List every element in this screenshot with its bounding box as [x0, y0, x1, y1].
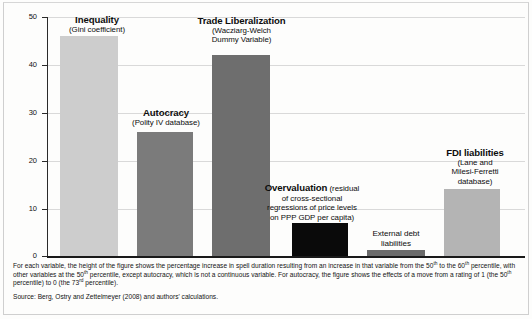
- bar-fdi-liabilities: [444, 189, 500, 256]
- label-overvaluation-sub-2: of cross-sectional: [252, 194, 372, 204]
- y-tick-label-10: 10: [29, 205, 37, 213]
- y-tick-label-30: 30: [29, 109, 37, 117]
- label-trade-liberalization-title: Trade Liberalization: [185, 16, 298, 26]
- y-tick-label-50: 50: [29, 13, 37, 21]
- label-trade-liberalization-sub-2: Dummy Variable): [185, 35, 298, 45]
- label-external-debt-line-1: External debt: [361, 229, 431, 239]
- gridline-40: [47, 65, 525, 66]
- y-tick-label-40: 40: [29, 61, 37, 69]
- label-trade-liberalization-sub-1: (Wacziarg-Welch: [185, 26, 298, 36]
- label-fdi-liabilities-sub-3: database): [432, 177, 518, 187]
- figure-notes: For each variable, the height of the fig…: [13, 262, 521, 301]
- bar-autocracy: [137, 132, 193, 256]
- y-tick-label-0: 0: [33, 252, 37, 260]
- label-inequality-title: Inequality: [47, 15, 147, 25]
- label-external-debt: External debt liabilities: [361, 229, 431, 248]
- note-seg-g: percentile) to 0 (the 73: [13, 279, 79, 286]
- label-overvaluation-sub-1: (residual: [327, 184, 359, 193]
- x-axis-line: [47, 256, 525, 258]
- note-seg-c: percentile,: [469, 262, 501, 269]
- label-fdi-liabilities-sub-1: (Lane and: [432, 158, 518, 168]
- note-seg-a: For each variable, the height of the fig…: [13, 262, 433, 269]
- y-tick-label-20: 20: [29, 157, 37, 165]
- bar-overvaluation: [292, 223, 348, 257]
- label-external-debt-line-2: liabilities: [361, 239, 431, 249]
- label-inequality: Inequality (Gini coefficient): [47, 15, 147, 34]
- bar-inequality: [60, 36, 118, 256]
- label-fdi-liabilities: FDI liabilities (Lane and Milesi-Ferrett…: [432, 148, 518, 186]
- note-seg-h: percentile).: [84, 279, 119, 286]
- note-sup-d: th: [507, 269, 511, 274]
- y-axis-labels: 50 40 30 20 10 0: [0, 17, 45, 257]
- y-axis-line: [47, 17, 48, 257]
- bar-external-debt: [367, 250, 425, 256]
- label-autocracy-title: Autocracy: [117, 108, 215, 118]
- figure-note-text: For each variable, the height of the fig…: [13, 262, 521, 288]
- label-trade-liberalization: Trade Liberalization (Wacziarg-Welch Dum…: [185, 16, 298, 45]
- note-seg-f: (the 50: [487, 271, 508, 278]
- label-fdi-liabilities-title: FDI liabilities: [432, 148, 518, 158]
- label-autocracy-sub: (Polity IV database): [117, 118, 215, 128]
- label-overvaluation-sub-3: regressions of price levels: [252, 203, 372, 213]
- note-seg-b: to the 60: [437, 262, 465, 269]
- figure-source: Source: Berg, Ostry and Zettelmeyer (200…: [13, 293, 521, 302]
- figure-panel: 50 40 30 20 10 0 Inequality (Gini coeffi…: [0, 0, 532, 319]
- label-overvaluation-title: Overvaluation: [265, 182, 328, 193]
- label-autocracy: Autocracy (Polity IV database): [117, 108, 215, 127]
- label-fdi-liabilities-sub-2: Milesi-Ferretti: [432, 167, 518, 177]
- label-inequality-sub: (Gini coefficient): [47, 25, 147, 35]
- bar-trade-liberalization: [212, 55, 270, 256]
- label-overvaluation: Overvaluation (residual of cross-section…: [252, 181, 372, 222]
- label-overvaluation-sub-4: on PPP GDP per capita): [252, 213, 372, 223]
- note-seg-e: percentile, except autocracy, which is n…: [88, 271, 485, 278]
